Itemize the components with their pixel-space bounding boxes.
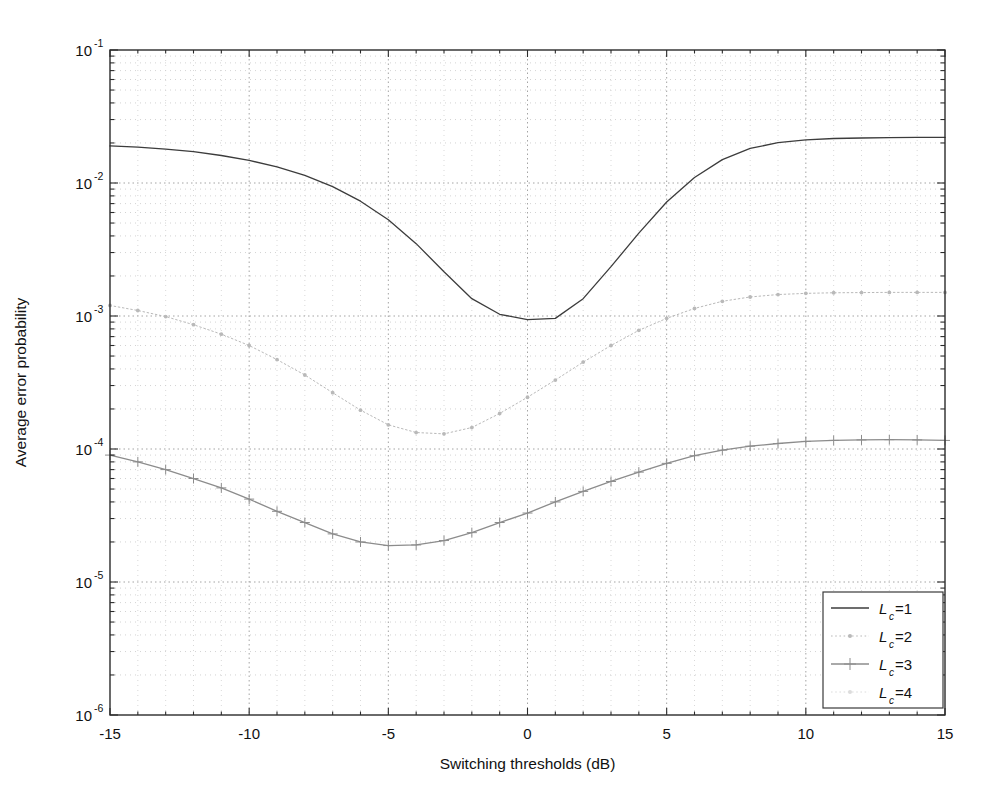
series-marker-dot [832,291,836,295]
series-marker-dot [386,423,390,427]
legend-marker-dot [848,634,852,638]
svg-text:10: 10 [75,574,92,591]
x-tick-label: -10 [238,725,260,742]
legend-label-base: L [879,656,887,673]
series-marker-dot [526,395,530,399]
series-marker-dot [609,344,613,348]
y-axis-label: Average error probability [12,298,29,468]
series-marker-dot [887,290,891,294]
legend-box[interactable]: Lc=1Lc=2Lc=3Lc=4 [823,592,943,708]
series-marker-dot [748,295,752,299]
series-marker-dot [498,412,502,416]
series-marker-dot [275,358,279,362]
series-marker-dot [693,307,697,311]
svg-text:10: 10 [75,42,92,59]
series-marker-dot [164,315,168,319]
legend-label-base: L [879,628,887,645]
legend-label-subscript: c [889,695,894,706]
svg-text:10: 10 [75,308,92,325]
svg-text:10: 10 [75,175,92,192]
series-marker-dot [247,344,251,348]
svg-text:-1: -1 [94,37,103,49]
x-axis-label: Switching thresholds (dB) [440,755,616,772]
series-marker-dot [414,431,418,435]
series-marker-dot [442,432,446,436]
legend-label-subscript: c [889,667,894,678]
svg-text:-2: -2 [94,170,103,182]
series-marker-dot [581,360,585,364]
svg-text:10: 10 [75,707,92,724]
x-tick-label: 5 [662,725,670,742]
semilog-chart: -15-10-5051015 10-610-510-410-310-210-1 … [0,0,985,798]
series-marker-dot [331,391,335,395]
figure-container: -15-10-5051015 10-610-510-410-310-210-1 … [0,0,985,798]
legend-label-value: =1 [895,600,912,617]
series-marker-dot [776,293,780,297]
series-marker-dot [192,323,196,327]
legend-label-base: L [879,684,887,701]
legend-label-value: =4 [895,684,912,701]
x-tick-label: 15 [937,725,954,742]
x-tick-label: -15 [99,725,121,742]
legend-label-value: =2 [895,628,912,645]
legend-marker-dot [848,690,852,694]
series-marker-dot [665,316,669,320]
series-marker-dot [303,373,307,377]
series-marker-dot [219,332,223,336]
svg-text:-5: -5 [94,569,103,581]
legend-label-value: =3 [895,656,912,673]
series-marker-dot [720,299,724,303]
svg-text:10: 10 [75,441,92,458]
series-marker-dot [470,426,474,430]
series-marker-dot [860,291,864,295]
series-marker-dot [915,290,919,294]
svg-text:-4: -4 [94,436,103,448]
x-tick-label: 10 [797,725,814,742]
legend-label-subscript: c [889,639,894,650]
legend-label-subscript: c [889,611,894,622]
series-marker-dot [359,408,363,412]
legend-label-base: L [879,600,887,617]
x-tick-label: -5 [382,725,395,742]
svg-text:-3: -3 [94,303,103,315]
series-marker-dot [637,328,641,332]
series-marker-dot [804,291,808,295]
svg-text:-6: -6 [94,702,103,714]
x-tick-label: 0 [523,725,531,742]
series-marker-dot [553,378,557,382]
series-marker-dot [136,309,140,313]
